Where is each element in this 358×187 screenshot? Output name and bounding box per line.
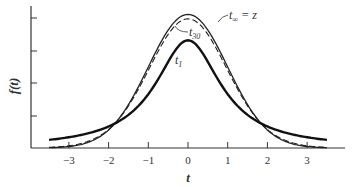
x-tick-label: −2 — [103, 154, 115, 166]
x-tick-label: 3 — [304, 154, 310, 166]
t1-annotation: t1 — [175, 53, 182, 69]
t30-annotation: t30 — [189, 25, 200, 41]
curves — [49, 14, 327, 147]
x-tick-label: −1 — [142, 154, 154, 166]
x-tick-labels: −3−2−10123 — [63, 154, 310, 166]
x-tick-label: 1 — [225, 154, 231, 166]
curve-t30 — [49, 19, 327, 148]
tinf-annotation: t∞ = z — [229, 8, 257, 24]
tinf-leader-line — [218, 15, 228, 22]
t30-leader-line — [175, 26, 188, 32]
axes — [31, 6, 345, 148]
x-tick-label: −3 — [63, 154, 75, 166]
x-tick-label: 2 — [265, 154, 271, 166]
curve-t-infinity — [49, 14, 327, 147]
x-axis-label: t — [186, 170, 190, 185]
x-tick-label: 0 — [185, 154, 191, 166]
y-axis-label: f(t) — [6, 78, 21, 95]
curve-t1 — [49, 40, 327, 140]
chart-svg: −3−2−10123 f(t) t t∞ = z t30 t1 — [0, 0, 358, 187]
t-distribution-chart: −3−2−10123 f(t) t t∞ = z t30 t1 — [0, 0, 358, 187]
